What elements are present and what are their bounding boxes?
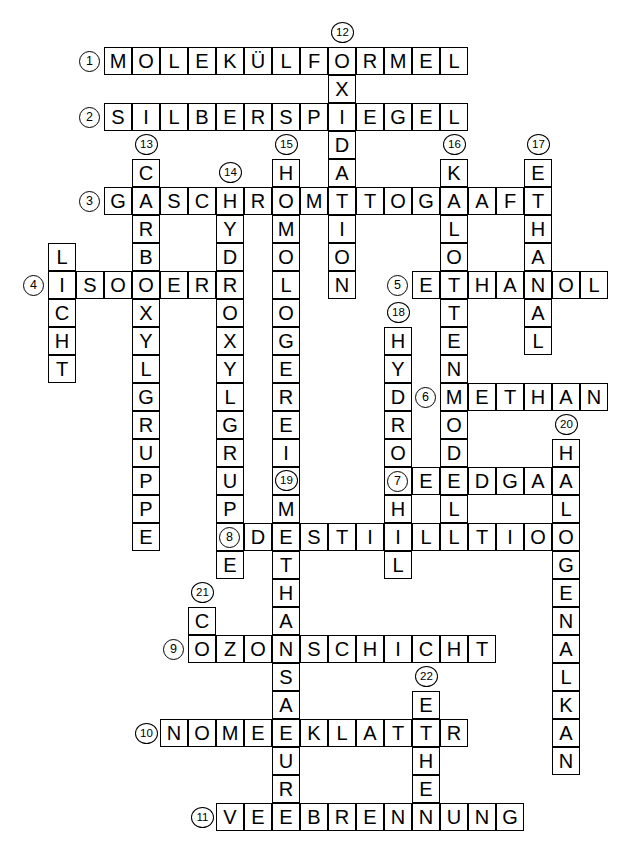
crossword-cell[interactable]: T — [48, 355, 76, 383]
crossword-cell[interactable]: S — [76, 271, 104, 299]
crossword-cell[interactable]: B — [188, 103, 216, 131]
crossword-cell[interactable]: A — [552, 719, 580, 747]
crossword-cell[interactable]: S — [272, 103, 300, 131]
crossword-cell[interactable]: D — [440, 439, 468, 467]
crossword-cell[interactable]: H — [412, 747, 440, 775]
crossword-cell[interactable]: T — [356, 187, 384, 215]
crossword-cell[interactable]: E — [272, 355, 300, 383]
crossword-cell[interactable]: R — [272, 383, 300, 411]
crossword-cell[interactable]: A — [524, 243, 552, 271]
crossword-cell[interactable]: H — [384, 495, 412, 523]
crossword-cell[interactable]: E — [440, 327, 468, 355]
crossword-cell[interactable]: N — [440, 355, 468, 383]
crossword-cell[interactable]: A — [552, 635, 580, 663]
crossword-cell[interactable]: G — [496, 467, 524, 495]
crossword-cell[interactable]: L — [524, 327, 552, 355]
crossword-cell[interactable]: A — [272, 691, 300, 719]
crossword-cell[interactable]: H — [384, 327, 412, 355]
crossword-cell[interactable]: N — [412, 803, 440, 831]
crossword-cell[interactable]: E — [524, 159, 552, 187]
crossword-cell[interactable]: T — [272, 551, 300, 579]
crossword-cell[interactable]: K — [440, 159, 468, 187]
crossword-cell[interactable]: G — [132, 383, 160, 411]
crossword-cell[interactable]: A — [524, 299, 552, 327]
crossword-cell[interactable]: A — [524, 467, 552, 495]
crossword-cell[interactable]: E — [356, 803, 384, 831]
crossword-cell[interactable]: L — [440, 103, 468, 131]
crossword-cell[interactable]: T — [440, 271, 468, 299]
crossword-cell[interactable]: E — [440, 467, 468, 495]
crossword-cell[interactable]: R — [272, 775, 300, 803]
crossword-cell[interactable]: H — [216, 187, 244, 215]
crossword-cell[interactable]: E — [160, 271, 188, 299]
crossword-cell[interactable]: L — [132, 355, 160, 383]
crossword-cell[interactable]: U — [132, 439, 160, 467]
crossword-cell[interactable]: X — [132, 299, 160, 327]
crossword-cell[interactable]: S — [160, 187, 188, 215]
crossword-cell[interactable]: O — [272, 299, 300, 327]
crossword-cell[interactable]: O — [552, 523, 580, 551]
crossword-cell[interactable]: H — [48, 327, 76, 355]
crossword-cell[interactable]: I — [328, 215, 356, 243]
crossword-cell[interactable]: H — [356, 635, 384, 663]
crossword-cell[interactable]: M — [272, 215, 300, 243]
crossword-cell[interactable]: G — [272, 327, 300, 355]
crossword-cell[interactable]: O — [328, 243, 356, 271]
crossword-cell[interactable]: R — [132, 411, 160, 439]
crossword-cell[interactable]: D — [468, 467, 496, 495]
crossword-cell[interactable]: T — [328, 187, 356, 215]
crossword-cell[interactable]: A — [328, 159, 356, 187]
crossword-cell[interactable]: O — [552, 271, 580, 299]
crossword-cell[interactable]: A — [552, 467, 580, 495]
crossword-cell[interactable]: E — [216, 551, 244, 579]
crossword-cell[interactable]: E — [272, 719, 300, 747]
crossword-cell[interactable]: S — [300, 523, 328, 551]
crossword-cell[interactable]: E — [468, 383, 496, 411]
crossword-cell[interactable]: O — [384, 187, 412, 215]
crossword-cell[interactable]: A — [132, 187, 160, 215]
crossword-cell[interactable]: N — [468, 803, 496, 831]
crossword-cell[interactable]: N — [552, 607, 580, 635]
crossword-cell[interactable]: Y — [216, 215, 244, 243]
crossword-cell[interactable]: T — [328, 523, 356, 551]
crossword-cell[interactable]: O — [244, 635, 272, 663]
crossword-cell[interactable]: E — [244, 803, 272, 831]
crossword-cell[interactable]: I — [384, 523, 412, 551]
crossword-cell[interactable]: E — [552, 579, 580, 607]
crossword-cell[interactable]: L — [272, 47, 300, 75]
crossword-cell[interactable]: N — [384, 803, 412, 831]
crossword-cell[interactable]: O — [216, 299, 244, 327]
crossword-cell[interactable]: I — [356, 523, 384, 551]
crossword-cell[interactable]: A — [468, 187, 496, 215]
crossword-cell[interactable]: H — [272, 579, 300, 607]
crossword-cell[interactable]: R — [216, 271, 244, 299]
crossword-cell[interactable]: C — [328, 635, 356, 663]
crossword-cell[interactable]: M — [216, 719, 244, 747]
crossword-cell[interactable]: O — [132, 271, 160, 299]
crossword-cell[interactable]: N — [272, 635, 300, 663]
crossword-cell[interactable]: I — [328, 103, 356, 131]
crossword-cell[interactable]: F — [300, 47, 328, 75]
crossword-cell[interactable]: E — [188, 47, 216, 75]
crossword-cell[interactable]: E — [272, 411, 300, 439]
crossword-cell[interactable]: R — [244, 103, 272, 131]
crossword-cell[interactable]: D — [328, 131, 356, 159]
crossword-cell[interactable]: E — [412, 271, 440, 299]
crossword-cell[interactable]: Z — [216, 635, 244, 663]
crossword-cell[interactable]: A — [272, 607, 300, 635]
crossword-cell[interactable]: L — [160, 47, 188, 75]
crossword-cell[interactable]: R — [384, 411, 412, 439]
crossword-cell[interactable]: K — [216, 47, 244, 75]
crossword-cell[interactable]: T — [496, 383, 524, 411]
crossword-cell[interactable]: T — [384, 719, 412, 747]
crossword-cell[interactable]: E — [132, 523, 160, 551]
crossword-cell[interactable]: H — [552, 439, 580, 467]
crossword-cell[interactable]: A — [356, 719, 384, 747]
crossword-cell[interactable]: L — [412, 523, 440, 551]
crossword-cell[interactable]: N — [580, 383, 608, 411]
crossword-cell[interactable]: H — [468, 271, 496, 299]
crossword-cell[interactable]: M — [272, 495, 300, 523]
crossword-cell[interactable]: V — [216, 803, 244, 831]
crossword-cell[interactable]: O — [272, 243, 300, 271]
crossword-cell[interactable]: T — [468, 635, 496, 663]
